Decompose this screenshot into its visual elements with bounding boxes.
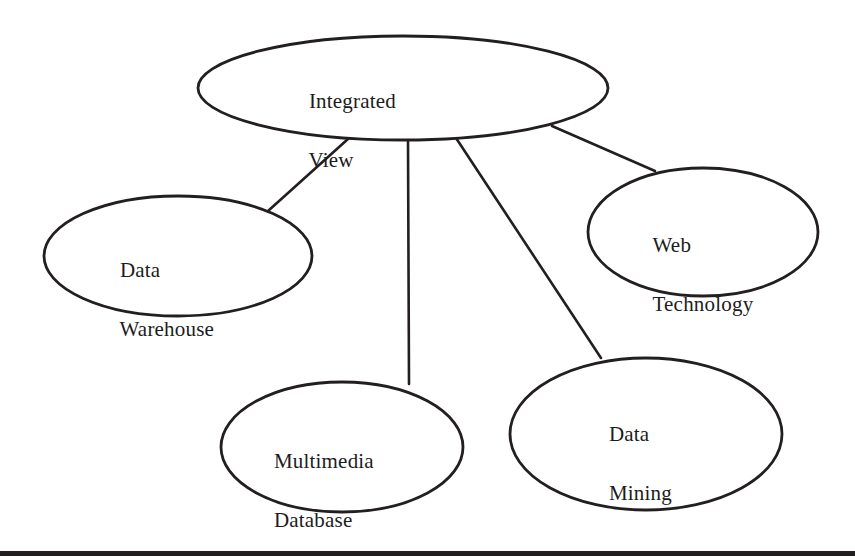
node-label-line1: Data <box>609 422 649 446</box>
edge-integrated-view-to-web-technology <box>552 126 655 171</box>
edge-integrated-view-to-data-mining <box>456 138 601 358</box>
node-label-line1: Web <box>653 233 692 257</box>
node-label-web-technology: Web Technology <box>642 201 753 320</box>
node-label-line2: Warehouse <box>120 317 215 341</box>
node-label-line1: Data <box>120 258 160 282</box>
node-label-data-mining: Data Mining <box>598 390 672 509</box>
node-label-line2: View <box>309 148 354 172</box>
node-label-line2: Mining <box>609 481 672 505</box>
node-integrated-view[interactable] <box>198 36 608 140</box>
edge-integrated-view-to-multimedia-database <box>408 140 409 384</box>
node-label-line2: Database <box>274 508 353 532</box>
page-divider-rule <box>0 551 855 556</box>
node-label-data-warehouse: Data Warehouse <box>109 226 214 345</box>
node-label-line2: Technology <box>653 292 754 316</box>
node-label-line1: Multimedia <box>274 449 374 473</box>
node-label-integrated-view: Integrated View <box>298 57 396 176</box>
node-label-multimedia-database: Multimedia Database <box>263 417 374 536</box>
node-label-line1: Integrated <box>309 89 396 113</box>
